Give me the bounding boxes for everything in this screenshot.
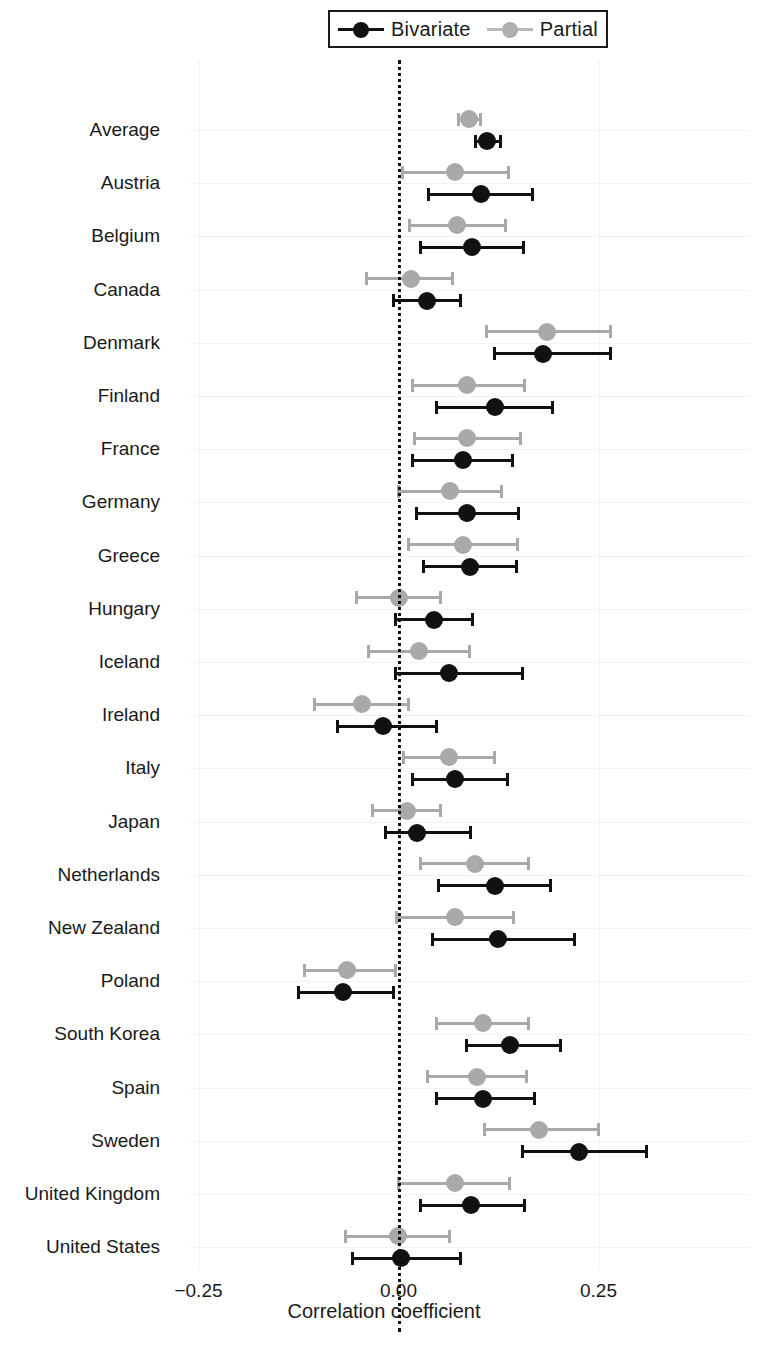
confidence-interval-cap	[468, 645, 471, 658]
confidence-interval-cap	[559, 1039, 562, 1052]
confidence-interval-cap	[392, 986, 395, 999]
data-point-marker	[440, 748, 458, 766]
data-point-marker	[489, 930, 507, 948]
data-point-marker	[478, 132, 496, 150]
confidence-interval-cap	[422, 560, 425, 573]
confidence-interval-cap	[426, 1070, 429, 1083]
gridline-horizontal	[190, 502, 750, 503]
confidence-interval-cap	[394, 667, 397, 680]
confidence-interval-cap	[303, 964, 306, 977]
data-point-marker	[460, 110, 478, 128]
confidence-interval-cap	[351, 1252, 354, 1265]
data-point-marker	[570, 1143, 588, 1161]
confidence-interval-cap	[597, 1123, 600, 1136]
confidence-interval-cap	[413, 432, 416, 445]
confidence-interval-cap	[411, 454, 414, 467]
confidence-interval-cap	[448, 1230, 451, 1243]
confidence-interval-cap	[435, 1092, 438, 1105]
data-point-marker	[463, 238, 481, 256]
confidence-interval-cap	[365, 272, 368, 285]
confidence-interval-cap	[407, 538, 410, 551]
data-point-marker	[462, 1196, 480, 1214]
gridline-horizontal	[190, 822, 750, 823]
data-point-marker	[338, 961, 356, 979]
confidence-interval-cap	[435, 1017, 438, 1030]
confidence-interval-cap	[401, 166, 404, 179]
confidence-interval-cap	[485, 325, 488, 338]
confidence-interval-cap	[431, 933, 434, 946]
confidence-interval-cap	[355, 591, 358, 604]
category-label: Canada	[93, 279, 160, 301]
confidence-interval-cap	[471, 613, 474, 626]
x-tick-label: −0.25	[174, 1280, 222, 1302]
confidence-interval-cap	[549, 879, 552, 892]
data-point-marker	[448, 216, 466, 234]
confidence-interval-cap	[527, 857, 530, 870]
data-point-marker	[441, 482, 459, 500]
category-label: Netherlands	[58, 864, 160, 886]
gridline-horizontal	[190, 1141, 750, 1142]
confidence-interval-cap	[313, 698, 316, 711]
confidence-interval-cap	[521, 667, 524, 680]
confidence-interval-cap	[493, 347, 496, 360]
confidence-interval-cap	[411, 773, 414, 786]
legend-item-partial: Partial	[487, 18, 598, 41]
gridline-horizontal	[190, 928, 750, 929]
confidence-interval-cap	[427, 188, 430, 201]
category-label: France	[101, 438, 160, 460]
category-label: Average	[90, 119, 160, 141]
gridline-horizontal	[190, 715, 750, 716]
category-label: Denmark	[83, 332, 160, 354]
confidence-interval-cap	[493, 751, 496, 764]
gridline-horizontal	[190, 449, 750, 450]
confidence-interval-cap	[499, 135, 502, 148]
confidence-interval-cap	[522, 241, 525, 254]
category-label: Greece	[98, 545, 160, 567]
confidence-interval-cap	[511, 454, 514, 467]
gridline-horizontal	[190, 1088, 750, 1089]
category-label: Japan	[108, 811, 160, 833]
confidence-interval-cap	[573, 933, 576, 946]
data-point-marker	[353, 695, 371, 713]
data-point-marker	[468, 1068, 486, 1086]
data-point-marker	[440, 664, 458, 682]
data-point-marker	[466, 855, 484, 873]
confidence-interval-cap	[394, 613, 397, 626]
legend-label-bivariate: Bivariate	[391, 18, 471, 41]
data-point-marker	[474, 1090, 492, 1108]
category-label: Spain	[111, 1077, 160, 1099]
confidence-interval-cap	[519, 432, 522, 445]
category-label: South Korea	[54, 1023, 160, 1045]
confidence-interval-cap	[459, 1252, 462, 1265]
confidence-interval-cap	[336, 720, 339, 733]
confidence-interval-cap	[533, 1092, 536, 1105]
category-label: Germany	[82, 491, 160, 513]
confidence-interval-cap	[515, 560, 518, 573]
confidence-interval-cap	[394, 964, 397, 977]
confidence-interval-cap	[479, 113, 482, 126]
data-point-marker	[501, 1036, 519, 1054]
gridline-horizontal	[190, 609, 750, 610]
data-point-marker	[446, 163, 464, 181]
legend-item-bivariate: Bivariate	[338, 18, 471, 41]
gridline-horizontal	[190, 875, 750, 876]
confidence-interval-cap	[297, 986, 300, 999]
data-point-marker	[334, 983, 352, 1001]
confidence-interval-cap	[451, 272, 454, 285]
data-point-marker	[472, 185, 490, 203]
category-label: Austria	[101, 172, 160, 194]
confidence-interval-cap	[392, 294, 395, 307]
gridline-horizontal	[190, 290, 750, 291]
legend-marker-bivariate-icon	[338, 21, 384, 37]
category-label: Hungary	[88, 598, 160, 620]
data-point-marker	[538, 323, 556, 341]
confidence-interval-cap	[500, 485, 503, 498]
confidence-interval-cap	[521, 1145, 524, 1158]
forest-plot: Bivariate Partial AverageAustriaBelgiumC…	[0, 0, 768, 1347]
confidence-interval-cap	[411, 379, 414, 392]
confidence-interval-cap	[435, 401, 438, 414]
gridline-horizontal	[190, 1194, 750, 1195]
gridline-horizontal	[190, 662, 750, 663]
confidence-interval-bar	[395, 672, 522, 675]
data-point-marker	[374, 717, 392, 735]
